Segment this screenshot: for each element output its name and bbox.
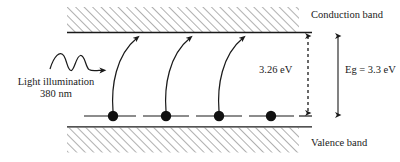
transition-energy-label: 3.26 eV <box>259 64 292 76</box>
electron-3-dot <box>214 111 224 121</box>
light-illumination-line-2: 380 nm <box>2 88 110 100</box>
light-illumination-label: Light illumination 380 nm <box>2 76 110 101</box>
excitation-arrow-group <box>113 38 243 111</box>
valence-band-hatch <box>67 127 299 153</box>
band-diagram-figure: Conduction band Valence band 3.26 eV Eg … <box>0 0 400 162</box>
photon-wave-path <box>50 54 103 71</box>
light-illumination-line-1: Light illumination <box>18 76 95 87</box>
excitation-arrow-1 <box>113 38 137 111</box>
conduction-band-label: Conduction band <box>311 9 383 21</box>
valence-band-label: Valence band <box>311 137 367 149</box>
conduction-band-block <box>67 7 312 33</box>
electron-2-dot <box>161 111 171 121</box>
photon-wave-arrow <box>50 54 103 71</box>
excitation-arrow-2 <box>166 38 190 111</box>
electron-4-dot <box>266 111 276 121</box>
band-gap-label: Eg = 3.3 eV <box>345 64 396 76</box>
electron-1-dot <box>108 111 118 121</box>
conduction-band-hatch <box>67 7 299 33</box>
valence-band-block <box>67 127 312 153</box>
excitation-arrow-3 <box>219 38 243 111</box>
